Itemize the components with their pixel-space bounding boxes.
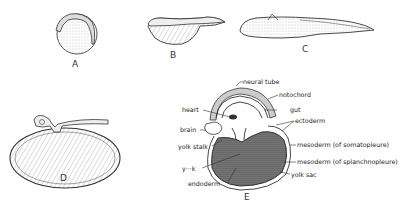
panel-label-e: E bbox=[244, 192, 250, 202]
label-neural-tube: neural tube bbox=[243, 78, 280, 85]
label-endoderm: endoderm bbox=[188, 180, 220, 187]
embryo-diagram: A B C D bbox=[0, 0, 412, 214]
label-mesoderm-splanchnopleure: mesoderm (of splanchnopleure) bbox=[297, 158, 398, 166]
label-gut: gut bbox=[290, 106, 301, 114]
label-brain: brain bbox=[180, 126, 196, 133]
panel-a-embryo bbox=[56, 14, 97, 54]
label-yolk-sac: yolk sac bbox=[291, 171, 317, 179]
label-heart: heart bbox=[182, 106, 199, 113]
label-yolk: y···k bbox=[182, 165, 196, 173]
label-ectoderm: ectoderm bbox=[295, 117, 325, 124]
panel-c-embryo bbox=[240, 14, 374, 38]
label-yolk-stalk: yolk stalk bbox=[178, 143, 208, 151]
panel-label-c: C bbox=[302, 44, 308, 54]
label-notochord: notochord bbox=[279, 91, 311, 98]
panel-label-d: D bbox=[60, 173, 67, 183]
panel-e-section bbox=[205, 88, 291, 190]
label-mesoderm-somatopleure: mesoderm (of somatopleure) bbox=[297, 141, 389, 149]
panel-label-b: B bbox=[170, 50, 176, 60]
panel-b-embryo bbox=[148, 17, 225, 44]
panel-label-a: A bbox=[72, 59, 79, 69]
